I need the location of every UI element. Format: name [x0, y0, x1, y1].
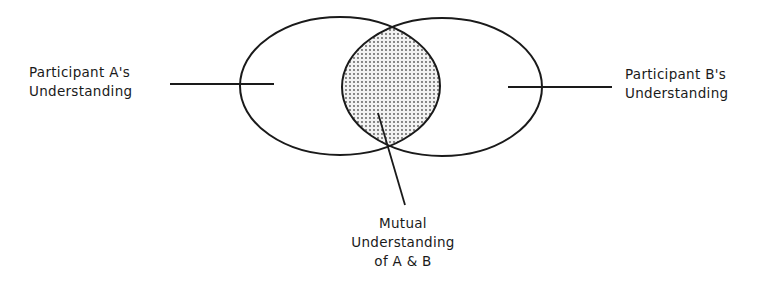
participant-b-label-line2: Understanding: [625, 84, 728, 103]
mutual-label-line1: Mutual: [333, 214, 473, 233]
mutual-label-line2: Understanding: [333, 233, 473, 252]
mutual-understanding-label: Mutual Understanding of A & B: [333, 214, 473, 271]
participant-b-label-line1: Participant B's: [625, 65, 728, 84]
participant-a-label-line1: Participant A's: [29, 63, 132, 82]
participant-a-label: Participant A's Understanding: [29, 63, 132, 101]
participant-a-label-line2: Understanding: [29, 82, 132, 101]
participant-b-label: Participant B's Understanding: [625, 65, 728, 103]
mutual-label-line3: of A & B: [333, 252, 473, 271]
